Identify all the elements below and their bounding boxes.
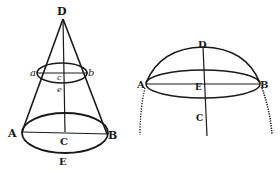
label-C: C xyxy=(60,136,68,147)
base-diameter xyxy=(22,132,108,134)
cone-labels: D a b c e A B C E xyxy=(7,5,117,167)
dotted-arc-right xyxy=(262,88,272,134)
dotted-arc-left xyxy=(140,88,145,135)
dome-labels: D A B E C xyxy=(136,39,268,123)
cone-figure xyxy=(22,19,108,153)
label-b: b xyxy=(88,67,94,78)
label-e: e xyxy=(57,85,62,94)
label-A: A xyxy=(7,127,17,140)
label-dome-D: D xyxy=(198,39,207,50)
label-dome-C: C xyxy=(196,113,203,123)
label-dome-A: A xyxy=(136,79,145,90)
label-c: c xyxy=(57,73,62,82)
dome-figure xyxy=(140,47,272,136)
cone-axis xyxy=(63,19,65,132)
label-dome-E: E xyxy=(195,82,202,92)
label-B: B xyxy=(108,129,117,142)
geometry-diagram: D a b c e A B C E D A B E C xyxy=(0,0,280,179)
label-E: E xyxy=(59,156,67,167)
label-dome-B: B xyxy=(260,79,268,90)
label-a: a xyxy=(30,67,36,78)
label-D: D xyxy=(57,5,67,18)
dome-axis xyxy=(203,47,207,136)
